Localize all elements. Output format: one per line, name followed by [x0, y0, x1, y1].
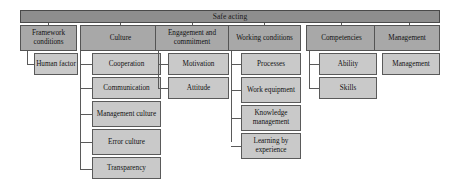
node-management-head-label: Management: [388, 34, 426, 43]
node-learning-by-experience: Learning by experience: [241, 133, 301, 159]
node-management-child-label: Management: [392, 60, 430, 69]
node-management-child: Management: [382, 53, 440, 75]
safe-acting-hierarchy-diagram: Safe acting Framework conditions Human f…: [0, 0, 460, 193]
connector-tick-learning-by-experience: [231, 146, 241, 147]
node-management-head: Management: [374, 25, 440, 51]
column-management: Management Management: [0, 0, 445, 100]
node-learning-by-experience-label: Learning by experience: [243, 137, 299, 155]
